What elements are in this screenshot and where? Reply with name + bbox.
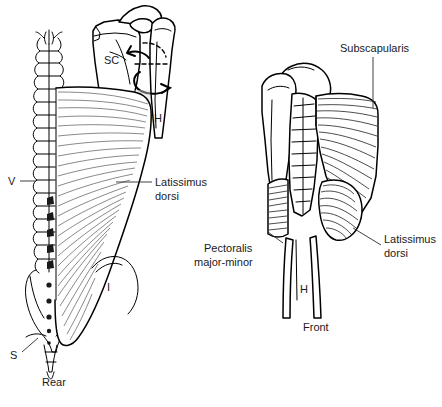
humerus-front-label: H <box>300 283 308 295</box>
anatomy-figure: Latissimus dorsi V S SC H I Rear <box>0 0 442 407</box>
front-view-group: Subscapularis Pectoralis major-minor Lat… <box>194 42 436 333</box>
vertebrae-label: V <box>8 175 16 187</box>
latissimus-rear-label-line1: Latissimus <box>155 176 207 188</box>
rear-caption: Rear <box>42 376 66 388</box>
sacrum-leader <box>22 338 38 352</box>
latissimus-front-leader <box>353 228 381 245</box>
torso-front-shape <box>289 93 318 216</box>
rear-view-group: Latissimus dorsi V S SC H I Rear <box>8 6 207 388</box>
sacrum-label: S <box>10 349 17 361</box>
latissimus-dorsi-rear-shape <box>55 87 152 345</box>
scapula-label: SC <box>104 54 119 66</box>
front-caption: Front <box>303 321 329 333</box>
humerus-front-shape <box>283 236 321 318</box>
pectoralis-label-line1: Pectoralis <box>204 242 253 254</box>
latissimus-front-label-line2: dorsi <box>384 247 408 259</box>
ilium-label: I <box>107 281 110 293</box>
latissimus-rear-label-line2: dorsi <box>155 190 179 202</box>
spinous-process-marks <box>46 196 54 345</box>
latissimus-front-label-line1: Latissimus <box>384 233 436 245</box>
pectoralis-label-line2: major-minor <box>194 256 253 268</box>
anatomy-svg: Latissimus dorsi V S SC H I Rear <box>0 0 442 407</box>
subscapularis-label: Subscapularis <box>340 42 410 54</box>
humerus-rear-label: H <box>154 112 162 124</box>
